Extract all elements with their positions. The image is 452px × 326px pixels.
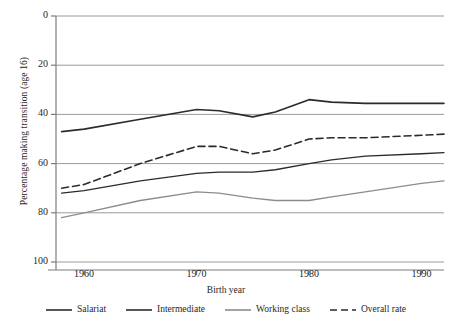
- x-tick-label: 1990: [402, 268, 442, 279]
- series-line-salariat: [62, 100, 444, 132]
- legend-item: Working class: [225, 304, 310, 314]
- y-tick-label: 100: [14, 255, 48, 266]
- x-tick-label: 1980: [289, 268, 329, 279]
- legend-label: Overall rate: [361, 304, 406, 314]
- y-tick-label: 20: [14, 58, 48, 69]
- legend-item: Overall rate: [330, 304, 406, 314]
- chart-figure: Percentage making transition (age 16) Bi…: [0, 0, 452, 326]
- series-line-overall-rate: [62, 134, 444, 188]
- y-tick-label: 80: [14, 206, 48, 217]
- legend-swatch-icon: [330, 305, 356, 314]
- series-line-intermediate: [62, 153, 444, 194]
- y-tick-label: 60: [14, 157, 48, 168]
- y-tick-label: 40: [14, 107, 48, 118]
- legend-label: Intermediate: [157, 304, 205, 314]
- x-tick-label: 1960: [64, 268, 104, 279]
- legend-label: Working class: [256, 304, 310, 314]
- legend-item: Salariat: [46, 304, 106, 314]
- legend-swatch-icon: [46, 305, 72, 314]
- legend-swatch-icon: [225, 305, 251, 314]
- chart-legend: SalariatIntermediateWorking classOverall…: [0, 304, 452, 314]
- x-axis-title: Birth year: [0, 285, 452, 295]
- series-line-working-class: [62, 181, 444, 218]
- legend-item: Intermediate: [126, 304, 205, 314]
- x-tick-label: 1970: [177, 268, 217, 279]
- y-tick-label: 0: [14, 9, 48, 20]
- legend-label: Salariat: [77, 304, 106, 314]
- legend-swatch-icon: [126, 305, 152, 314]
